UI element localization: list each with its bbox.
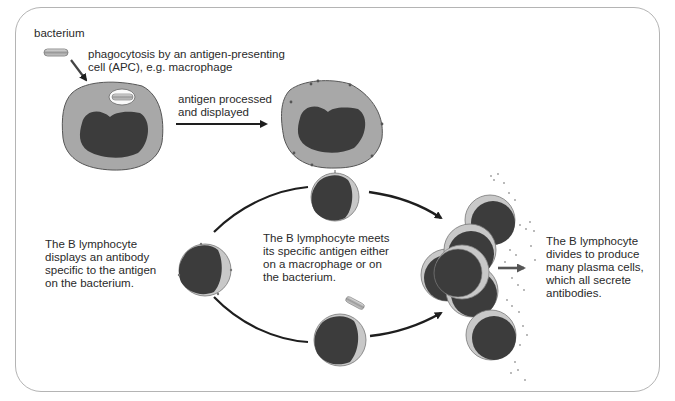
label-b-divides-2: divides to produce bbox=[546, 248, 639, 262]
label-b-display-2: displays an antibody bbox=[45, 251, 149, 265]
phagocytosis-arrow bbox=[71, 60, 86, 80]
label-phagocytosis-1: phagocytosis by an antigen-presenting bbox=[88, 48, 285, 62]
curve-arrow-bottom bbox=[370, 313, 441, 336]
plasma-cell-cluster-icon bbox=[421, 195, 516, 360]
b-lymphocyte-top-icon bbox=[311, 170, 359, 221]
macrophage-engulfing-icon bbox=[62, 82, 163, 170]
label-b-display-1: The B lymphocyte bbox=[45, 238, 137, 252]
label-b-divides-3: many plasma cells, bbox=[546, 261, 644, 275]
label-phagocytosis-2: cell (APC), e.g. macrophage bbox=[88, 61, 232, 75]
label-b-meets-3: on a macrophage or on bbox=[263, 258, 382, 272]
b-lymphocyte-bottom-icon bbox=[314, 296, 366, 366]
label-b-divides-4: which all secrete bbox=[546, 274, 631, 288]
label-b-divides-1: The B lymphocyte bbox=[546, 235, 638, 249]
label-b-meets-4: the bacterium. bbox=[263, 271, 336, 285]
label-b-display-3: specific to the antigen bbox=[45, 264, 156, 278]
label-antigen-1: antigen processed bbox=[178, 93, 272, 107]
bacterium-icon bbox=[44, 49, 68, 56]
label-b-display-4: on the bacterium. bbox=[45, 277, 134, 291]
label-bacterium: bacterium bbox=[34, 27, 85, 41]
curve-left-top bbox=[214, 187, 308, 232]
label-b-meets-2: its specific antigen either bbox=[263, 245, 389, 259]
macrophage-displaying-antigen-icon bbox=[282, 80, 384, 168]
b-lymphocyte-left-icon bbox=[178, 243, 232, 296]
curve-arrow-top bbox=[369, 192, 441, 218]
label-b-meets-1: The B lymphocyte meets bbox=[263, 232, 390, 246]
label-b-divides-5: antibodies. bbox=[546, 287, 602, 301]
label-antigen-2: and displayed bbox=[178, 106, 249, 120]
curve-left-bottom bbox=[214, 297, 308, 342]
